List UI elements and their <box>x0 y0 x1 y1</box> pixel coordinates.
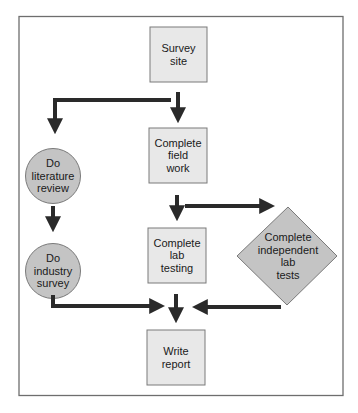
label-line: tests <box>258 269 319 282</box>
label-independent-lab-tests: Completeindependentlabtests <box>247 230 329 282</box>
label-line: Do <box>34 252 73 265</box>
label-field-work: Completefieldwork <box>149 128 207 183</box>
label-line: testing <box>153 262 200 275</box>
label-lab-testing: Completelabtesting <box>148 228 206 283</box>
label-line: lab <box>153 249 200 262</box>
label-line: report <box>162 358 191 371</box>
label-line: industry <box>34 265 73 278</box>
label-line: Do <box>32 157 75 170</box>
label-line: Complete <box>154 137 201 150</box>
label-line: work <box>154 162 201 175</box>
label-line: field <box>154 149 201 162</box>
label-line: Complete <box>258 231 319 244</box>
label-line: literature <box>32 170 75 183</box>
label-line: survey <box>34 277 73 290</box>
label-line: Write <box>162 345 191 358</box>
label-write-report: Writereport <box>147 330 205 385</box>
label-line: review <box>32 182 75 195</box>
label-line: Complete <box>153 237 200 250</box>
label-line: lab <box>258 256 319 269</box>
label-literature-review: Doliteraturereview <box>25 148 81 204</box>
label-line: independent <box>258 244 319 257</box>
label-industry-survey: Doindustrysurvey <box>25 243 81 299</box>
label-line: site <box>161 55 195 68</box>
label-line: Survey <box>161 42 195 55</box>
label-survey-site: Surveysite <box>150 27 207 82</box>
